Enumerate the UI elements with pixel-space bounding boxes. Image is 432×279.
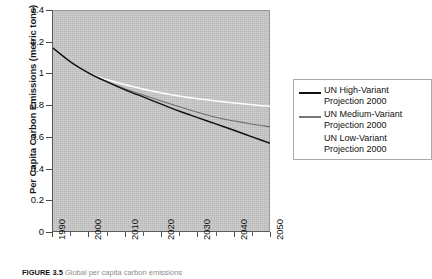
x-tick xyxy=(270,232,271,237)
legend-swatch-high xyxy=(298,88,322,98)
plot-area xyxy=(52,10,270,232)
series-line xyxy=(53,48,270,127)
x-tick-label: 2040 xyxy=(238,219,249,240)
y-tick xyxy=(46,137,52,138)
x-tick xyxy=(197,232,198,237)
y-tick xyxy=(46,42,52,43)
x-tick-minor xyxy=(216,232,217,236)
y-tick-label: 0.4 xyxy=(4,163,44,174)
x-tick-minor xyxy=(107,232,108,236)
legend-label-high: UN High-Variant Projection 2000 xyxy=(322,85,389,106)
legend-label-low: UN Low-Variant Projection 2000 xyxy=(322,133,387,154)
x-tick-label: 2000 xyxy=(92,219,103,240)
y-tick-label: 0.6 xyxy=(4,131,44,142)
legend-label-medium: UN Medium-Variant Projection 2000 xyxy=(322,109,402,130)
x-tick-minor xyxy=(179,232,180,236)
x-tick xyxy=(88,232,89,237)
legend-item-low: UN Low-Variant Projection 2000 xyxy=(298,133,431,154)
y-tick-label: 1.4 xyxy=(4,4,44,15)
x-tick-minor xyxy=(143,232,144,236)
legend-swatch-low xyxy=(298,136,322,146)
y-tick-label: 1 xyxy=(4,67,44,78)
x-tick xyxy=(52,232,53,237)
x-tick xyxy=(125,232,126,237)
series-curves xyxy=(53,10,270,232)
y-tick-label: 0.2 xyxy=(4,194,44,205)
x-tick-minor xyxy=(252,232,253,236)
y-tick xyxy=(46,105,52,106)
figure-container: Per Capita Carbon Emissions (metric tons… xyxy=(0,0,432,279)
x-tick-label: 2050 xyxy=(274,219,285,240)
y-tick-label: 0 xyxy=(4,226,44,237)
chart-legend: UN High-Variant Projection 2000 UN Mediu… xyxy=(293,79,432,160)
figure-caption: FIGURE 3.5 Global per capita carbon emis… xyxy=(22,268,182,277)
y-tick xyxy=(46,169,52,170)
x-tick-label: 2020 xyxy=(165,219,176,240)
x-tick xyxy=(234,232,235,237)
x-tick-minor xyxy=(70,232,71,236)
legend-item-medium: UN Medium-Variant Projection 2000 xyxy=(298,109,431,130)
y-tick-label: 0.8 xyxy=(4,99,44,110)
figure-caption-label: FIGURE 3.5 xyxy=(22,268,63,277)
x-tick-label: 2030 xyxy=(201,219,212,240)
x-tick xyxy=(161,232,162,237)
x-tick-label: 2010 xyxy=(129,219,140,240)
figure-caption-text: Global per capita carbon emissions xyxy=(65,268,182,277)
x-tick-label: 1990 xyxy=(56,219,67,240)
y-tick xyxy=(46,10,52,11)
series-line xyxy=(53,48,270,143)
y-tick xyxy=(46,200,52,201)
y-tick xyxy=(46,73,52,74)
legend-swatch-medium xyxy=(298,112,322,122)
legend-item-high: UN High-Variant Projection 2000 xyxy=(298,85,431,106)
y-tick-label: 1.2 xyxy=(4,36,44,47)
series-line xyxy=(53,48,270,106)
